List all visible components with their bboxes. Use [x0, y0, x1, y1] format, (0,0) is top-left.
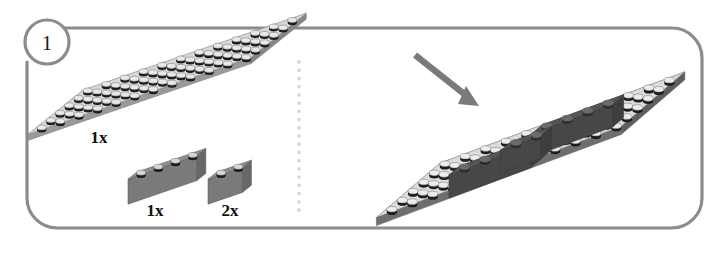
part-brick-1x4: 1x: [128, 148, 206, 220]
separator-dot: [297, 192, 301, 196]
part-brick-1x2: 2x: [208, 160, 251, 220]
stud: [167, 63, 176, 71]
separator-dot: [297, 142, 301, 146]
stud: [232, 45, 241, 53]
stud: [241, 38, 250, 46]
stud: [242, 46, 251, 54]
separator-dot: [297, 126, 301, 130]
stud: [429, 170, 439, 178]
stud: [440, 161, 450, 170]
stud: [583, 108, 593, 117]
assembled-model: [376, 72, 684, 226]
stud: [102, 90, 111, 98]
stud: [149, 78, 158, 86]
stud: [158, 79, 167, 87]
stud: [177, 73, 186, 81]
stud: [232, 54, 241, 62]
stud: [643, 96, 653, 105]
stud: [223, 53, 232, 61]
stud: [56, 119, 65, 127]
stud: [603, 100, 613, 109]
stud: [204, 59, 213, 67]
step-number-badge: 1: [25, 20, 69, 64]
stud: [74, 112, 83, 120]
stud: [481, 146, 491, 154]
stud: [171, 158, 180, 166]
stud: [186, 74, 195, 82]
stud: [102, 82, 111, 90]
separator-dot: [297, 109, 301, 113]
stud: [186, 57, 195, 65]
separator-dot: [297, 134, 301, 138]
base-plate-body: [28, 13, 306, 140]
stud: [158, 62, 167, 70]
stud: [260, 40, 269, 48]
stud: [65, 111, 74, 119]
stud: [214, 52, 223, 60]
dotted-separator: [297, 60, 301, 212]
stud: [188, 152, 197, 160]
stud: [130, 93, 139, 101]
separator-dot: [297, 200, 301, 204]
stud: [623, 93, 633, 101]
stud: [139, 77, 148, 85]
stud: [74, 104, 83, 112]
stud: [139, 69, 148, 77]
stud: [408, 188, 418, 197]
separator-dot: [297, 159, 301, 163]
stud: [111, 91, 120, 99]
stud: [148, 70, 157, 78]
stud: [419, 179, 429, 188]
stud: [74, 95, 83, 103]
stud: [93, 89, 102, 97]
stud: [111, 83, 120, 91]
stud: [205, 67, 214, 75]
stud: [623, 103, 633, 112]
stud: [195, 50, 204, 58]
stud: [664, 77, 674, 86]
separator-dot: [297, 118, 301, 122]
stud: [120, 75, 129, 83]
stud: [232, 37, 241, 45]
separator-dot: [297, 151, 301, 155]
part-base-plate-qty: 1x: [91, 128, 109, 147]
stud: [121, 92, 130, 100]
separator-dot: [297, 93, 301, 97]
stud: [531, 132, 541, 141]
separator-dot: [297, 60, 301, 64]
stud: [428, 181, 438, 190]
stud: [112, 99, 121, 107]
stud: [154, 164, 163, 172]
placement-arrow: [415, 55, 479, 106]
separator-dot: [297, 101, 301, 105]
stud: [428, 191, 438, 200]
stud: [83, 96, 92, 104]
stud: [204, 51, 213, 59]
separator-dot: [297, 77, 301, 81]
stud: [46, 118, 55, 126]
stud: [130, 76, 139, 84]
stud: [644, 85, 654, 94]
separator-dot: [297, 85, 301, 89]
stud: [65, 103, 74, 111]
stud: [223, 44, 232, 52]
stud: [460, 153, 470, 162]
stud: [242, 55, 251, 63]
stud: [269, 32, 278, 40]
stud: [84, 105, 93, 113]
stud: [93, 97, 102, 105]
stud: [438, 182, 448, 191]
stud: [288, 18, 297, 26]
stud: [511, 140, 521, 149]
stud: [139, 86, 148, 94]
stud: [418, 190, 428, 199]
separator-dot: [297, 167, 301, 171]
stud: [407, 199, 417, 208]
part-base-plate: 1x: [28, 13, 306, 147]
stud: [234, 164, 243, 172]
stud: [195, 58, 204, 66]
stud: [56, 110, 65, 118]
stud: [562, 115, 572, 124]
stud: [633, 94, 643, 103]
stud: [260, 31, 269, 39]
